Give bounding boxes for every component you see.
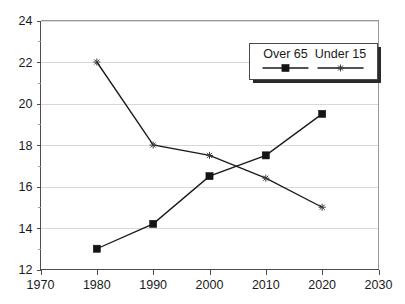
x-axis-tick-label: 2010 bbox=[252, 278, 280, 292]
line-chart: 12141618202224 1970198019902000201020202… bbox=[0, 0, 405, 304]
data-point-marker-square bbox=[150, 220, 157, 227]
series-line bbox=[97, 62, 322, 207]
y-axis-tick-label: 12 bbox=[19, 263, 33, 277]
x-axis bbox=[41, 270, 380, 275]
y-axis-tick-label: 24 bbox=[19, 14, 33, 28]
y-axis bbox=[37, 21, 41, 271]
x-axis-tick-label: 1970 bbox=[27, 278, 55, 292]
data-point-marker-asterisk bbox=[150, 142, 157, 149]
x-axis-tick-label: 2000 bbox=[196, 278, 224, 292]
y-axis-tick-label: 18 bbox=[19, 139, 33, 153]
y-axis-tick-label: 20 bbox=[19, 97, 33, 111]
data-point-marker-asterisk bbox=[206, 152, 213, 159]
data-point-marker-asterisk bbox=[319, 204, 326, 211]
data-point-marker-asterisk bbox=[93, 59, 100, 66]
legend-item-label[interactable]: Under 15 bbox=[315, 47, 366, 61]
x-axis-tick-labels: 1970198019902000201020202030 bbox=[27, 278, 393, 292]
data-point-marker-square bbox=[319, 110, 326, 117]
legend-item-label[interactable]: Over 65 bbox=[263, 47, 308, 61]
chart-container: 12141618202224 1970198019902000201020202… bbox=[0, 0, 405, 304]
data-point-marker-asterisk bbox=[262, 175, 269, 182]
y-axis-tick-label: 16 bbox=[19, 180, 33, 194]
y-axis-tick-label: 22 bbox=[19, 56, 33, 70]
data-point-marker-square bbox=[93, 245, 100, 252]
data-point-marker-square bbox=[282, 64, 289, 71]
y-axis-tick-label: 14 bbox=[19, 222, 33, 236]
data-point-marker-square bbox=[206, 173, 213, 180]
x-axis-tick-label: 2030 bbox=[365, 278, 393, 292]
chart-legend[interactable]: Over 65Under 15 bbox=[250, 44, 382, 84]
x-axis-tick-label: 1990 bbox=[139, 278, 167, 292]
x-axis-tick-label: 2020 bbox=[308, 278, 336, 292]
series-over-65 bbox=[93, 110, 326, 252]
data-point-marker-square bbox=[262, 152, 269, 159]
data-point-marker-asterisk bbox=[337, 65, 344, 72]
x-axis-tick-label: 1980 bbox=[83, 278, 111, 292]
y-axis-tick-labels: 12141618202224 bbox=[19, 14, 33, 277]
